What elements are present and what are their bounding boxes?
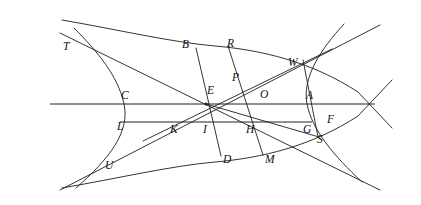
point-label-B: B: [182, 39, 189, 51]
point-label-D: D: [223, 154, 231, 166]
center-point-marker-E: [205, 103, 208, 106]
point-label-C: C: [121, 90, 129, 102]
point-label-I: I: [203, 124, 207, 136]
point-label-F: F: [327, 114, 334, 126]
diagram-canvas: [0, 0, 421, 205]
point-label-O: O: [260, 89, 268, 101]
point-label-L: L: [117, 121, 123, 133]
point-label-G: G: [303, 124, 311, 136]
point-label-P: P: [232, 72, 239, 84]
point-label-W: W: [288, 57, 298, 69]
point-label-U: U: [105, 160, 113, 172]
point-label-A: A: [306, 90, 313, 102]
geometry-diagram: T C L U B R E P O W A F G S K I H D M: [0, 0, 421, 205]
point-label-R: R: [227, 38, 234, 50]
point-label-T: T: [63, 41, 69, 53]
point-label-K: K: [170, 124, 178, 136]
point-label-M: M: [265, 154, 275, 166]
point-label-H: H: [246, 124, 254, 136]
point-label-E: E: [207, 85, 214, 97]
point-label-S: S: [317, 134, 323, 146]
